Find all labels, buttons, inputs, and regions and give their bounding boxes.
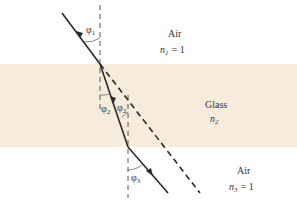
incident-ray — [62, 13, 100, 64]
angle-arc-phi1 — [84, 38, 100, 42]
index-label-n1: n1= 1 — [160, 44, 185, 57]
region-name-air-bottom: Air — [237, 165, 251, 176]
region-name-air-top: Air — [168, 28, 182, 39]
glass-slab — [0, 64, 297, 147]
index-label-n3: n3= 1 — [229, 181, 254, 194]
angle-arc-phi3 — [128, 164, 143, 170]
refraction-diagram: φ1 φ2 φ2 φ3 Air n1= 1 Glass n2 Air n3= 1 — [0, 0, 297, 209]
region-name-glass: Glass — [205, 99, 227, 110]
angle-label-phi1: φ1 — [86, 24, 96, 37]
angle-label-phi3: φ3 — [131, 172, 141, 185]
